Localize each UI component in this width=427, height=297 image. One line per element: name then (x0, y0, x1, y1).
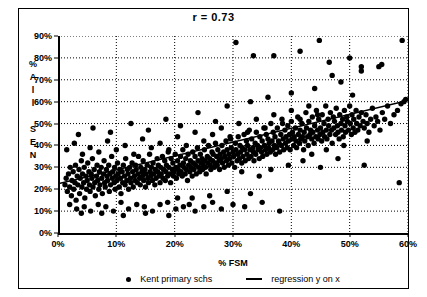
data-point (362, 162, 367, 167)
data-point (271, 112, 276, 117)
y-tick-mark (54, 123, 58, 124)
data-point (166, 213, 171, 218)
data-point (101, 158, 106, 163)
data-point (329, 73, 334, 78)
x-tick-label: 50% (341, 239, 359, 249)
data-point (201, 138, 206, 143)
data-point (262, 125, 267, 130)
data-point (97, 182, 102, 187)
y-tick-label: 90% (34, 31, 52, 41)
data-point (259, 200, 264, 205)
data-point (126, 187, 131, 192)
data-point (118, 200, 123, 205)
x-tick-label: 10% (107, 239, 125, 249)
data-point (297, 49, 302, 54)
y-tick-mark (54, 211, 58, 212)
data-point (275, 125, 280, 130)
data-point (178, 123, 183, 128)
data-point (382, 116, 387, 121)
y-tick-label: 80% (34, 53, 52, 63)
data-point (168, 180, 173, 185)
data-point (111, 208, 116, 213)
data-point (309, 152, 314, 157)
y-tick-mark (54, 167, 58, 168)
data-point (364, 138, 369, 143)
data-point (74, 206, 79, 211)
data-point (315, 112, 320, 117)
data-point (317, 38, 322, 43)
data-point (163, 116, 168, 121)
data-point (123, 156, 128, 161)
y-tick-label: 0% (39, 228, 52, 238)
data-point (364, 121, 369, 126)
data-point (115, 160, 120, 165)
x-tick-mark (408, 233, 409, 237)
data-point (143, 211, 148, 216)
data-point (254, 116, 259, 121)
data-point (136, 154, 141, 159)
data-point (181, 204, 186, 209)
legend-item: Kent primary schs (126, 274, 212, 284)
data-point (146, 127, 151, 132)
data-point (272, 134, 277, 139)
data-point (76, 167, 81, 172)
y-tick-mark (54, 145, 58, 146)
data-point (106, 162, 111, 167)
data-point (219, 206, 224, 211)
data-point (85, 160, 90, 165)
data-point (73, 197, 78, 202)
data-point (300, 158, 305, 163)
data-point (395, 108, 400, 113)
data-point (334, 106, 339, 111)
data-point (131, 152, 136, 157)
data-point (368, 116, 373, 121)
data-point (103, 204, 108, 209)
data-point (175, 134, 180, 139)
data-point (142, 204, 147, 209)
data-point (312, 86, 317, 91)
data-point (217, 167, 222, 172)
data-point (175, 195, 180, 200)
data-point (166, 147, 171, 152)
data-point (318, 165, 323, 170)
data-point (90, 156, 95, 161)
legend-label: regression y on x (271, 274, 340, 284)
data-point (285, 123, 290, 128)
data-point (98, 165, 103, 170)
data-point (338, 79, 343, 84)
plot-svg (58, 36, 408, 233)
data-point (271, 53, 276, 58)
data-point (192, 208, 197, 213)
y-tick-label: 20% (34, 184, 52, 194)
data-point (320, 112, 325, 117)
data-point (107, 189, 112, 194)
y-axis-line (58, 36, 60, 233)
data-point (121, 213, 126, 218)
data-point (100, 191, 105, 196)
scatter-chart: r = 0.73 %All SEN % FSM 0%10%20%30%40%50… (0, 0, 427, 297)
data-point (203, 171, 208, 176)
data-point (303, 110, 308, 115)
x-tick-mark (349, 233, 350, 237)
data-point (140, 136, 145, 141)
y-tick-label: 10% (34, 206, 52, 216)
data-point (147, 152, 152, 157)
data-point (82, 195, 87, 200)
data-point (192, 130, 197, 135)
data-point (265, 95, 270, 100)
data-point (327, 60, 332, 65)
data-point (77, 191, 82, 196)
data-point (79, 158, 84, 163)
data-point (210, 132, 215, 137)
legend-dot-marker (126, 277, 131, 282)
data-point (138, 182, 143, 187)
data-point (96, 149, 101, 154)
chart-title: r = 0.73 (18, 11, 409, 23)
data-point (324, 147, 329, 152)
data-point (70, 169, 75, 174)
data-point (397, 180, 402, 185)
data-point (69, 193, 74, 198)
y-tick-mark (54, 101, 58, 102)
data-point (251, 53, 256, 58)
data-point (347, 55, 352, 60)
